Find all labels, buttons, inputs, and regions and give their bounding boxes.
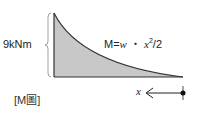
formula-prefix: M=	[104, 38, 120, 50]
moment-formula: M=w ・ x2/2	[104, 35, 162, 51]
diagram-title: [M圖]	[14, 91, 40, 107]
x-axis-label: x	[136, 85, 141, 97]
magnitude-label: 9kNm	[3, 38, 32, 50]
brace-icon	[45, 13, 51, 77]
formula-suffix: /2	[153, 38, 162, 50]
formula-dot: ・	[127, 38, 144, 50]
origin-dot	[181, 91, 186, 96]
formula-w: w	[120, 38, 127, 50]
